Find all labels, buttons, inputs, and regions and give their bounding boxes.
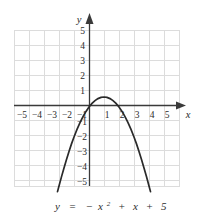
x-tick-labels: −5 −4 −3 −2 −1 1 2 3 4 5	[17, 110, 170, 120]
grid-lines	[14, 30, 180, 187]
y-axis-label: y	[76, 14, 82, 25]
svg-text:y = −: y = − x 2 + x + 5	[54, 196, 167, 212]
equation-caption: y = − x 2 + x + 5	[54, 196, 167, 212]
x-tick-label: 1	[105, 110, 110, 120]
y-tick-label: −4	[77, 162, 87, 172]
eq-term2: x	[132, 200, 138, 212]
eq-term1-base: x	[97, 200, 103, 212]
axis-lines	[14, 20, 176, 186]
eq-term1-exponent: 2	[107, 200, 111, 208]
x-tick-label: −4	[32, 110, 42, 120]
eq-plus2: +	[146, 200, 154, 212]
y-tick-label: 2	[80, 71, 85, 81]
eq-plus1: +	[118, 200, 126, 212]
y-tick-label: 1	[80, 86, 85, 96]
coordinate-plane-svg: y x −5 −4 −3 −2 −1 1 2 3 4 5 5 4 3 2 1 −…	[0, 0, 203, 221]
x-tick-label: 3	[135, 110, 140, 120]
eq-term3: 5	[161, 200, 167, 212]
eq-lhs: y	[54, 200, 60, 212]
y-tick-label: 3	[80, 56, 85, 66]
x-tick-label: 5	[165, 110, 170, 120]
x-tick-label: −5	[17, 110, 27, 120]
eq-equals: =	[69, 200, 77, 212]
y-tick-label: 4	[80, 41, 85, 51]
arrow-up-icon	[86, 13, 94, 24]
y-tick-label: −3	[77, 147, 87, 157]
arrow-right-icon	[176, 102, 186, 110]
y-tick-label: 5	[80, 26, 85, 36]
graph-figure: y x −5 −4 −3 −2 −1 1 2 3 4 5 5 4 3 2 1 −…	[0, 0, 203, 221]
y-tick-label: −5	[77, 177, 87, 187]
x-tick-label: −3	[47, 110, 57, 120]
x-axis-label: x	[185, 109, 191, 120]
y-tick-label: −2	[77, 132, 87, 142]
y-tick-labels: 5 4 3 2 1 −1 −2 −3 −4 −5	[77, 26, 87, 187]
x-tick-label: −2	[62, 110, 72, 120]
eq-term1-sign: −	[86, 200, 94, 212]
x-tick-label: 4	[150, 110, 155, 120]
